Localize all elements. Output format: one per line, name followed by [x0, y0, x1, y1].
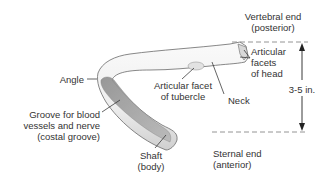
- label-angle: Angle: [30, 74, 84, 85]
- label-vertebral-end: Vertebral end (posterior): [232, 11, 314, 33]
- label-sternal-end: Sternal end (anterior): [213, 148, 262, 170]
- label-costal-groove: Groove for blood vessels and nerve (cost…: [4, 109, 100, 142]
- leader-tubercle: [182, 68, 194, 79]
- label-neck: Neck: [228, 95, 250, 106]
- label-articular-facet-tubercle: Articular facet of tubercle: [140, 80, 226, 102]
- label-articular-facets-head: Articular facets of head: [251, 46, 286, 79]
- arrow-down-icon: [299, 123, 305, 131]
- arrow-up-icon: [299, 43, 305, 51]
- label-measurement: 3-5 in.: [284, 84, 320, 95]
- rib-diagram: Vertebral end (posterior) Articular face…: [0, 0, 329, 181]
- label-shaft: Shaft (body): [133, 150, 169, 172]
- tubercle: [188, 62, 204, 70]
